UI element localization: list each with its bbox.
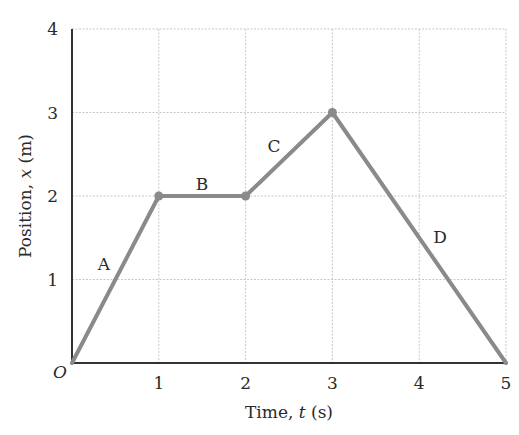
segment-label-d: D <box>433 227 447 247</box>
position-time-chart: 123451234 ABCD O Time, t (s) Position, x… <box>0 0 519 435</box>
x-tick-label: 3 <box>327 373 338 393</box>
segment-label-b: B <box>196 174 209 194</box>
x-tick-label: 1 <box>153 373 164 393</box>
origin-label: O <box>53 362 67 382</box>
vertex-marker <box>241 192 250 201</box>
vertex-marker <box>328 108 337 117</box>
y-tick-label: 1 <box>47 270 58 290</box>
x-tick-label: 2 <box>240 373 251 393</box>
vertex-marker <box>154 192 163 201</box>
x-tick-label: 4 <box>414 373 425 393</box>
segment-label-a: A <box>97 254 111 274</box>
x-tick-label: 5 <box>501 373 512 393</box>
segment-label-c: C <box>267 136 280 156</box>
y-tick-label: 4 <box>47 19 58 39</box>
x-axis-title: Time, t (s) <box>245 402 333 422</box>
tick-labels: 123451234 <box>47 19 511 393</box>
grid-lines <box>72 29 506 363</box>
y-tick-label: 3 <box>47 103 58 123</box>
y-axis-title: Position, x (m) <box>15 134 35 258</box>
y-tick-label: 2 <box>47 186 58 206</box>
